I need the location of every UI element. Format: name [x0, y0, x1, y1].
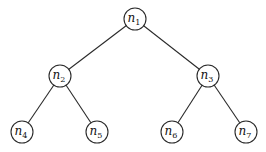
- binary-tree-diagram: n1n2n3n4n5n6n7: [0, 0, 266, 152]
- node-n3: n3: [197, 65, 219, 87]
- node-n5: n5: [86, 121, 108, 143]
- node-n4: n4: [11, 121, 33, 143]
- nodes: n1n2n3n4n5n6n7: [11, 8, 257, 143]
- node-n7: n7: [235, 121, 257, 143]
- node-n2: n2: [49, 65, 71, 87]
- node-n6: n6: [161, 121, 183, 143]
- edge-n1-n2: [60, 19, 135, 76]
- node-n1: n1: [124, 8, 146, 30]
- edge-n1-n3: [135, 19, 208, 76]
